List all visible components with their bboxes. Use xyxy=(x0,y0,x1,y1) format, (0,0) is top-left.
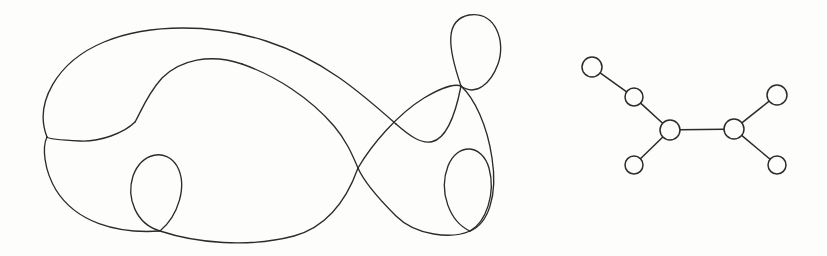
graph-node-upper-mid[interactable] xyxy=(625,88,643,106)
graph-node-left-junction[interactable] xyxy=(660,120,680,140)
graph-node-right-junction[interactable] xyxy=(724,119,744,139)
figure-root xyxy=(0,0,827,256)
figure-canvas xyxy=(0,0,827,256)
graph-node-upper-right-leaf[interactable] xyxy=(767,85,787,105)
figure-background xyxy=(0,0,827,256)
graph-node-lower-right-leaf[interactable] xyxy=(768,156,786,174)
graph-edge-edge-leftjunction-rightjunction xyxy=(680,129,724,130)
graph-node-top-left-leaf[interactable] xyxy=(582,57,602,77)
graph-node-lower-left-leaf[interactable] xyxy=(625,156,643,174)
